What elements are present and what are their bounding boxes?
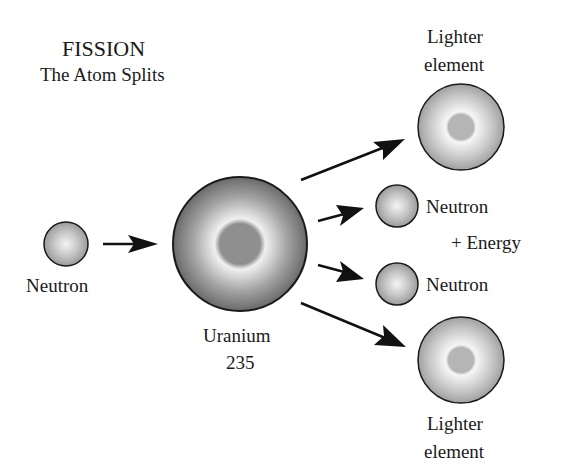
uranium-isotope-label: 235 (226, 352, 255, 374)
outgoing-neutron-2 (376, 263, 418, 305)
incoming-neutron-label: Neutron (26, 275, 88, 297)
fission-diagram: FISSION The Atom Splits Neutron Uranium … (0, 0, 561, 471)
diagram-subtitle: The Atom Splits (40, 64, 165, 86)
lighter-element-bottom (418, 317, 504, 403)
outgoing-neutron-label-2: Neutron (426, 274, 488, 296)
lighter-bottom-label-2: element (424, 441, 484, 463)
arrow-icon (103, 235, 158, 253)
arrow-icon (301, 139, 405, 180)
diagram-title: FISSION (62, 36, 145, 61)
arrow-icon (318, 261, 364, 282)
lighter-top-label: Lighter (427, 26, 483, 48)
uranium-235-atom (173, 177, 307, 311)
energy-label: + Energy (451, 232, 521, 254)
lighter-element-top (418, 84, 504, 170)
uranium-label: Uranium (203, 325, 271, 347)
outgoing-neutron-label-1: Neutron (426, 196, 488, 218)
arrow-icon (301, 303, 406, 347)
lighter-bottom-label: Lighter (427, 413, 483, 435)
outgoing-neutron-1 (376, 185, 418, 227)
lighter-top-label-2: element (424, 54, 484, 76)
incoming-neutron (44, 222, 88, 266)
arrow-icon (318, 205, 364, 226)
